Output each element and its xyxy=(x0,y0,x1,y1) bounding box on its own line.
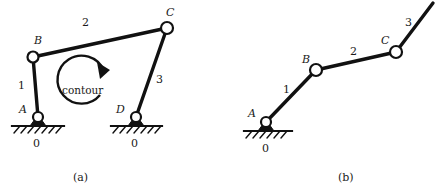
joint-b-A xyxy=(261,117,271,127)
point-label-a-A: A xyxy=(19,104,27,115)
ground-label-b-A: 0 xyxy=(262,143,269,154)
point-label-b-A: A xyxy=(248,108,256,119)
link-label-b-2: 2 xyxy=(350,46,357,57)
point-label-a-D: D xyxy=(116,104,125,115)
link-1-a xyxy=(33,57,38,117)
ground-label-a-A: 0 xyxy=(33,138,40,149)
link-label-b-1: 1 xyxy=(283,84,290,95)
contour-arc xyxy=(58,56,104,104)
link-label-a-2: 2 xyxy=(82,17,89,28)
point-label-b-C: C xyxy=(381,35,389,46)
link-2-a xyxy=(33,28,167,57)
link-label-a-3: 3 xyxy=(156,74,163,85)
point-label-a-C: C xyxy=(166,7,174,18)
point-label-b-B: B xyxy=(302,54,310,65)
joint-b-B xyxy=(310,64,322,76)
joint-b-C xyxy=(390,46,402,58)
caption-a: (a) xyxy=(73,172,88,183)
link-label-a-1: 1 xyxy=(18,80,25,91)
point-label-a-B: B xyxy=(34,35,42,46)
caption-b: (b) xyxy=(338,172,354,183)
diagram-canvas xyxy=(0,0,436,194)
link-3-b xyxy=(396,3,433,52)
link-label-b-3: 3 xyxy=(405,17,412,28)
contour-label: contour xyxy=(62,85,103,96)
joint-a-D xyxy=(131,112,141,122)
contour-arrowhead xyxy=(97,62,110,79)
kinematic-diagram-figure: A B C D 1 2 3 0 0 contour A B C 1 2 3 0 … xyxy=(0,0,436,194)
joint-a-C xyxy=(161,22,173,34)
joint-a-A xyxy=(33,112,43,122)
joint-a-B xyxy=(28,52,39,63)
link-1-b xyxy=(266,70,316,122)
ground-label-a-D: 0 xyxy=(131,138,138,149)
